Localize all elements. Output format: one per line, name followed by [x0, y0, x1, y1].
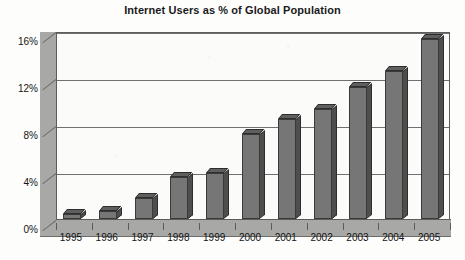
y-axis-tick-label: 12% — [4, 83, 38, 94]
bar — [170, 31, 188, 219]
x-axis-tick-label: 2005 — [409, 232, 449, 243]
x-axis-tick-label: 2004 — [373, 232, 413, 243]
bar — [278, 31, 296, 219]
bar-side-face — [332, 105, 337, 219]
x-axis-tick — [450, 223, 451, 230]
x-axis-tick-label: 2003 — [337, 232, 377, 243]
x-axis-tick — [271, 223, 272, 230]
x-axis-tick — [414, 223, 415, 230]
x-axis-tick-label: 2002 — [302, 232, 342, 243]
bar-front-face — [349, 87, 367, 219]
bar-front-face — [278, 119, 296, 219]
x-axis-tick — [128, 223, 129, 230]
x-axis-tick — [56, 223, 57, 230]
bar-side-face — [403, 67, 408, 219]
bar-side-face — [367, 83, 372, 219]
bar — [63, 31, 81, 219]
bar — [421, 31, 439, 219]
x-axis-tick-label: 1997 — [123, 232, 163, 243]
bar-front-face — [421, 39, 439, 219]
bar-top-face — [385, 66, 407, 71]
x-axis-tick — [235, 223, 236, 230]
bar-top-face — [314, 104, 336, 109]
bar-side-face — [224, 169, 229, 219]
bar-front-face — [135, 198, 153, 219]
x-axis: 1995199619971998199920002001200220032004… — [0, 232, 465, 254]
bar-top-face — [99, 206, 121, 211]
x-axis-tick-label: 1996 — [87, 232, 127, 243]
bar — [349, 31, 367, 219]
chart-left-wall-3d — [40, 32, 57, 237]
bar-chart: Internet Users as % of Global Population… — [0, 0, 465, 260]
x-axis-tick — [343, 223, 344, 230]
bar-top-face — [135, 193, 157, 198]
x-axis-tick-label: 2000 — [230, 232, 270, 243]
x-axis-tick — [163, 223, 164, 230]
bar — [242, 31, 260, 219]
bar-side-face — [296, 115, 301, 219]
x-axis-tick — [378, 223, 379, 230]
y-axis-tick-label: 8% — [4, 130, 38, 141]
chart-title: Internet Users as % of Global Population — [0, 4, 465, 16]
x-axis-tick-label: 1998 — [158, 232, 198, 243]
bar-front-face — [99, 211, 117, 219]
x-axis-tick-label: 1999 — [194, 232, 234, 243]
bar-front-face — [206, 173, 224, 219]
bar-side-face — [188, 173, 193, 219]
x-axis-tick-label: 2001 — [266, 232, 306, 243]
bar — [385, 31, 403, 219]
y-axis-tick-label: 4% — [4, 177, 38, 188]
plot-area — [56, 32, 450, 220]
bar-front-face — [242, 134, 260, 219]
bar-front-face — [314, 109, 332, 219]
bar-side-face — [260, 130, 265, 219]
bar-front-face — [385, 71, 403, 219]
x-axis-tick — [92, 223, 93, 230]
x-axis-tick-label: 1995 — [51, 232, 91, 243]
bar — [99, 31, 117, 219]
y-axis: 0%4%8%12%16% — [0, 0, 38, 260]
x-axis-tick — [307, 223, 308, 230]
bar — [314, 31, 332, 219]
bar-front-face — [170, 177, 188, 219]
y-axis-tick-label: 16% — [4, 36, 38, 47]
bar-top-face — [170, 172, 192, 177]
bar — [206, 31, 224, 219]
bar-front-face — [63, 214, 81, 219]
x-axis-tick — [199, 223, 200, 230]
bar — [135, 31, 153, 219]
bar-side-face — [153, 194, 158, 219]
bar-side-face — [439, 35, 444, 219]
